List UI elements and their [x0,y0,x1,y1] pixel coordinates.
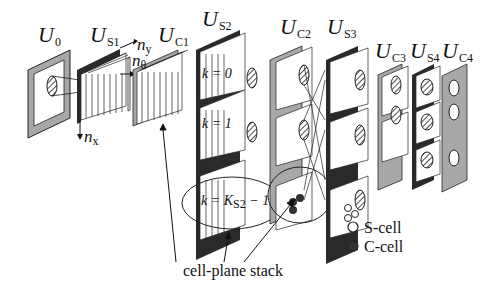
svg-text:nθ: nθ [132,51,147,72]
layer-us2 [182,30,282,260]
label-uc4: UC4 [442,38,473,65]
label-u0: U0 [38,22,61,49]
layer-us1 [77,39,138,140]
label-us2: US2 [202,6,232,33]
legend-c-cell: C-cell [364,238,404,255]
svg-text:k = 1: k = 1 [202,116,232,131]
layer-u0 [28,50,80,138]
label-us3: US3 [327,14,357,41]
layer-us4 [412,64,440,190]
svg-text:k = 0: k = 0 [202,66,232,81]
legend-s-cell: S-cell [364,219,402,236]
neocognitron-diagram: U0 US1 UC1 US2 UC2 US3 UC3 US4 UC4 ny nθ… [0,0,492,300]
c-cell-marker-icon [348,241,358,251]
label-uc2: UC2 [280,14,311,41]
layer-uc4 [442,64,467,192]
svg-text:nx: nx [84,127,99,148]
layer-labels: U0 US1 UC1 US2 UC2 US3 UC3 US4 UC4 [38,6,473,65]
label-uc1: UC1 [158,22,189,49]
label-uc3: UC3 [375,38,406,65]
layer-us3 [326,46,368,264]
layer-uc3 [378,64,408,190]
label-us1: US1 [90,22,120,49]
annotation-cell-plane-stack: cell-plane stack [183,262,283,280]
label-us4: US4 [410,38,440,65]
s-cell-marker-icon [348,222,358,232]
